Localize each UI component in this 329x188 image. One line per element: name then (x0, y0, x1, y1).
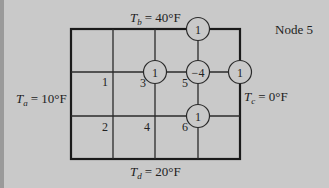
stencil-left: 1 (144, 61, 167, 84)
stencil-bottom: 1 (187, 105, 210, 128)
stencil-top: 1 (187, 18, 210, 41)
node-label-2: 2 (102, 120, 108, 134)
node-label-6: 6 (182, 120, 188, 134)
boundary-label-top: Tb= 40°F (130, 10, 181, 27)
stencil-right: 1 (229, 61, 252, 84)
boundary-label-right: Tc= 0°F (244, 89, 288, 106)
boundary-label-left: Ta= 10°F (16, 91, 67, 108)
stencil-coef-left: 1 (152, 66, 158, 80)
boundary-label-bottom: Td= 20°F (130, 164, 181, 181)
node-label-5: 5 (182, 76, 188, 90)
diagram-title: Node 5 (275, 22, 313, 37)
stencil-coef-bottom: 1 (195, 110, 201, 124)
svg-text:Tb= 40°F: Tb= 40°F (130, 10, 181, 27)
finite-difference-diagram: 1 1 −4 1 1 1 2 3 4 5 6 Tb= 40°F Ta= 10°F… (0, 0, 329, 188)
stencil-coef-right: 1 (237, 66, 243, 80)
stencil-coef-center: −4 (192, 66, 205, 80)
stencil-coef-top: 1 (195, 23, 201, 37)
svg-text:Tc= 0°F: Tc= 0°F (244, 89, 288, 106)
node-label-1: 1 (102, 75, 108, 89)
node-label-4: 4 (144, 120, 150, 134)
node-label-3: 3 (140, 76, 146, 90)
svg-text:Td= 20°F: Td= 20°F (130, 164, 181, 181)
stencil-center: −4 (187, 61, 210, 84)
grid-lines (71, 29, 240, 159)
svg-text:Ta= 10°F: Ta= 10°F (16, 91, 67, 108)
